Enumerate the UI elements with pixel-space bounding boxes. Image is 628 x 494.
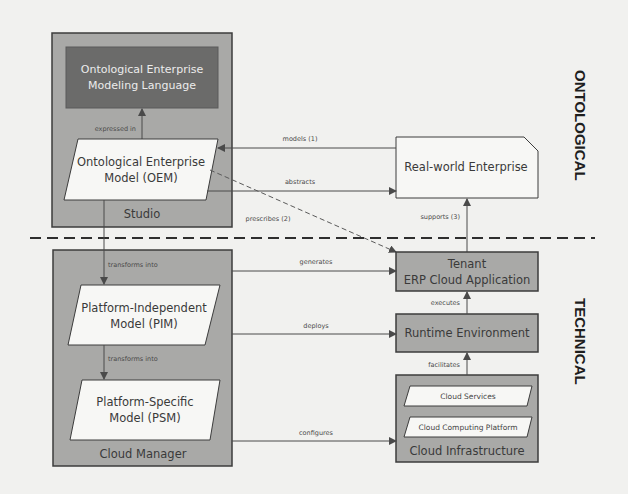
technical-layer-label: TECHNICAL [572,298,589,385]
oem-shape: Ontological Enterprise Model (OEM) [64,139,218,200]
generates-label: generates [300,258,333,266]
executes-label: executes [431,299,461,307]
tenant-line2: ERP Cloud Application [404,273,531,287]
modeling-language-line1: Ontological Enterprise [81,63,204,76]
psm-shape: Platform-Specific Model (PSM) [70,380,220,440]
pim-line2: Model (PIM) [110,317,177,331]
abstracts-label: abstracts [285,178,316,186]
pim-shape: Platform-Independent Model (PIM) [68,285,220,345]
real-world-enterprise-box: Real-world Enterprise [396,137,538,198]
expressed-in-label: expressed in [95,125,136,133]
cloud-infrastructure-box: Cloud Services Cloud Computing Platform … [396,375,538,462]
real-world-enterprise-label: Real-world Enterprise [404,160,527,174]
cloud-computing-platform-label: Cloud Computing Platform [418,423,517,432]
transforms-into-pim-label: transforms into [108,261,158,269]
tenant-line1: Tenant [447,257,487,271]
architecture-diagram: Studio Ontological Enterprise Modeling L… [0,0,628,494]
models-label: models (1) [283,135,318,143]
modeling-language-line2: Modeling Language [88,79,196,92]
ontological-layer-label: ONTOLOGICAL [572,70,589,181]
studio-title: Studio [124,207,161,221]
oem-line2: Model (OEM) [104,171,177,185]
deploys-label: deploys [303,322,329,330]
supports-label: supports (3) [420,213,460,221]
psm-line2: Model (PSM) [109,411,180,425]
configures-label: configures [299,429,334,437]
cloud-manager-title: Cloud Manager [100,447,187,461]
modeling-language-box: Ontological Enterprise Modeling Language [66,47,218,108]
prescribes-label: prescribes (2) [246,215,291,223]
psm-line1: Platform-Specific [96,395,193,409]
cloud-services-shape: Cloud Services [404,386,532,406]
runtime-environment-box: Runtime Environment [396,314,538,352]
runtime-environment-label: Runtime Environment [404,326,530,340]
facilitates-label: facilitates [428,361,460,369]
oem-line1: Ontological Enterprise [77,155,205,169]
transforms-into-psm-label: transforms into [108,355,158,363]
pim-line1: Platform-Independent [81,301,207,315]
cloud-computing-platform-shape: Cloud Computing Platform [404,417,532,437]
cloud-infrastructure-title: Cloud Infrastructure [409,444,524,458]
tenant-erp-box: Tenant ERP Cloud Application [396,252,538,291]
cloud-services-label: Cloud Services [440,392,496,401]
